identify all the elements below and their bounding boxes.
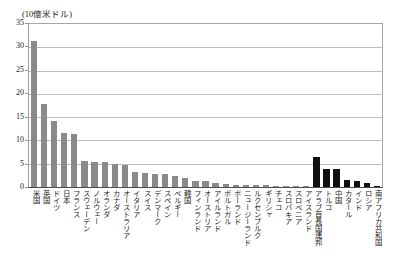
bar[interactable] bbox=[112, 164, 118, 187]
bar[interactable] bbox=[152, 174, 158, 187]
bar[interactable] bbox=[71, 134, 77, 187]
bar[interactable] bbox=[253, 185, 259, 187]
bar-slot[interactable] bbox=[362, 24, 372, 187]
bar[interactable] bbox=[273, 186, 279, 187]
bar-slot[interactable] bbox=[372, 24, 382, 187]
bar-slot[interactable] bbox=[311, 24, 321, 187]
y-tick-label: 5 bbox=[0, 160, 24, 168]
bar[interactable] bbox=[172, 176, 178, 187]
bar-slot[interactable] bbox=[281, 24, 291, 187]
bar-slot[interactable] bbox=[261, 24, 271, 187]
bar[interactable] bbox=[283, 186, 289, 187]
x-tick-label: スウェーデン bbox=[79, 189, 89, 231]
bar[interactable] bbox=[313, 157, 319, 187]
x-tick-label: 中国 bbox=[332, 189, 342, 203]
bar[interactable] bbox=[374, 186, 380, 187]
bar[interactable] bbox=[364, 183, 370, 187]
x-tick-label: ノルウェー bbox=[90, 189, 100, 224]
bar-slot[interactable] bbox=[211, 24, 221, 187]
bar-slot[interactable] bbox=[321, 24, 331, 187]
bar-slot[interactable] bbox=[90, 24, 100, 187]
bar[interactable] bbox=[223, 184, 229, 187]
x-axis-line bbox=[28, 187, 383, 188]
bar[interactable] bbox=[354, 181, 360, 187]
x-tick-label: カナダ bbox=[110, 189, 120, 210]
bar[interactable] bbox=[333, 169, 339, 187]
bar[interactable] bbox=[132, 172, 138, 187]
x-tick-label: デンマーク bbox=[150, 189, 160, 224]
bar-series bbox=[29, 24, 382, 187]
bar[interactable] bbox=[303, 186, 309, 187]
bar[interactable] bbox=[91, 162, 97, 187]
x-tick-label: フィンランド bbox=[190, 189, 200, 231]
bar-slot[interactable] bbox=[79, 24, 89, 187]
bar-slot[interactable] bbox=[241, 24, 251, 187]
bar-slot[interactable] bbox=[332, 24, 342, 187]
bar[interactable] bbox=[51, 121, 57, 187]
x-tick-label: ギリシャ bbox=[261, 189, 271, 217]
x-tick-label: 米国 bbox=[29, 189, 39, 203]
x-tick-label: スペイン bbox=[160, 189, 170, 217]
bar-slot[interactable] bbox=[160, 24, 170, 187]
bar-slot[interactable] bbox=[29, 24, 39, 187]
bar[interactable] bbox=[212, 183, 218, 187]
bar-slot[interactable] bbox=[251, 24, 261, 187]
bar-slot[interactable] bbox=[291, 24, 301, 187]
bar-slot[interactable] bbox=[180, 24, 190, 187]
x-tick-label: オーストリア bbox=[200, 189, 210, 231]
bar-slot[interactable] bbox=[140, 24, 150, 187]
bar-slot[interactable] bbox=[100, 24, 110, 187]
bar-slot[interactable] bbox=[130, 24, 140, 187]
x-tick-label: 日本 bbox=[59, 189, 69, 203]
bar-slot[interactable] bbox=[170, 24, 180, 187]
bar-slot[interactable] bbox=[190, 24, 200, 187]
bar[interactable] bbox=[142, 173, 148, 187]
bar-slot[interactable] bbox=[231, 24, 241, 187]
x-tick-label: ニュージーランド bbox=[241, 189, 251, 245]
bar[interactable] bbox=[41, 104, 47, 187]
x-tick-label: ドイツ bbox=[49, 189, 59, 210]
x-tick-label: スロベニア bbox=[291, 189, 301, 224]
bar-slot[interactable] bbox=[301, 24, 311, 187]
y-tick-label: 20 bbox=[0, 89, 24, 97]
bar[interactable] bbox=[263, 185, 269, 187]
bar[interactable] bbox=[344, 180, 350, 187]
y-tick-label: 0 bbox=[0, 183, 24, 191]
bar[interactable] bbox=[233, 185, 239, 187]
bar-slot[interactable] bbox=[150, 24, 160, 187]
x-tick-label: カタール bbox=[342, 189, 352, 217]
x-tick-label: トルコ bbox=[321, 189, 331, 210]
x-tick-label: インド bbox=[352, 189, 362, 210]
bar[interactable] bbox=[202, 181, 208, 187]
bar[interactable] bbox=[81, 161, 87, 187]
bar-slot[interactable] bbox=[59, 24, 69, 187]
bar[interactable] bbox=[61, 133, 67, 187]
x-tick-label: 韓国 bbox=[180, 189, 190, 203]
bar[interactable] bbox=[323, 169, 329, 188]
bar[interactable] bbox=[122, 165, 128, 187]
bar[interactable] bbox=[192, 181, 198, 187]
bar-slot[interactable] bbox=[69, 24, 79, 187]
bar[interactable] bbox=[31, 41, 37, 187]
bar-slot[interactable] bbox=[120, 24, 130, 187]
x-tick-label: チェコ bbox=[271, 189, 281, 210]
bar[interactable] bbox=[243, 185, 249, 187]
x-tick-label: オランダ bbox=[100, 189, 110, 217]
bar-slot[interactable] bbox=[49, 24, 59, 187]
bar[interactable] bbox=[162, 174, 168, 187]
x-axis-labels: 米国英国ドイツ日本フランススウェーデンノルウェーオランダカナダオーストラリアイタ… bbox=[29, 189, 382, 269]
bar-slot[interactable] bbox=[271, 24, 281, 187]
bar-slot[interactable] bbox=[110, 24, 120, 187]
y-tick-label: 15 bbox=[0, 113, 24, 121]
x-tick-label: オーストラリア bbox=[120, 189, 130, 238]
x-tick-label: スロバキア bbox=[281, 189, 291, 224]
bar-slot[interactable] bbox=[221, 24, 231, 187]
bar[interactable] bbox=[182, 178, 188, 187]
bar-slot[interactable] bbox=[39, 24, 49, 187]
bar-slot[interactable] bbox=[342, 24, 352, 187]
bar-slot[interactable] bbox=[200, 24, 210, 187]
bar[interactable] bbox=[102, 162, 108, 187]
bar-slot[interactable] bbox=[352, 24, 362, 187]
x-tick-label: スイス bbox=[140, 189, 150, 210]
bar[interactable] bbox=[293, 186, 299, 187]
